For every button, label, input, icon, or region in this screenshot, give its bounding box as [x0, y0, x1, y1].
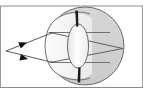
crystalline-lens — [68, 24, 89, 68]
eye-diagram-canvas — [0, 0, 143, 93]
eye-ray-diagram-figure — [0, 0, 143, 93]
